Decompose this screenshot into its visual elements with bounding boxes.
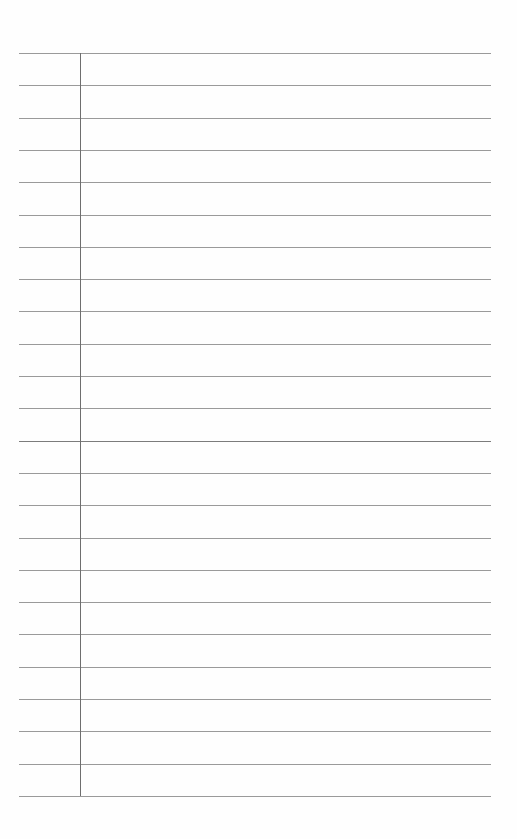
- ruled-line: [19, 376, 491, 377]
- margin-line: [80, 53, 81, 796]
- ruled-line: [19, 279, 491, 280]
- ruled-line: [19, 215, 491, 216]
- ruled-line: [19, 85, 491, 86]
- ruled-line: [19, 408, 491, 409]
- ruled-line: [19, 182, 491, 183]
- ruled-line: [19, 505, 491, 506]
- ruled-line: [19, 53, 491, 54]
- ruled-line: [19, 570, 491, 571]
- ruled-line: [19, 473, 491, 474]
- ruled-line: [19, 602, 491, 603]
- ruled-line: [19, 796, 491, 797]
- ruled-line: [19, 538, 491, 539]
- ruled-line: [19, 764, 491, 765]
- ruled-line: [19, 118, 491, 119]
- ruled-line: [19, 441, 491, 442]
- ruled-line: [19, 634, 491, 635]
- ruled-paper-sheet: [0, 0, 517, 839]
- ruled-line: [19, 150, 491, 151]
- ruled-line: [19, 311, 491, 312]
- ruled-line: [19, 344, 491, 345]
- ruled-line: [19, 667, 491, 668]
- ruled-line: [19, 247, 491, 248]
- ruled-line: [19, 699, 491, 700]
- ruled-line: [19, 731, 491, 732]
